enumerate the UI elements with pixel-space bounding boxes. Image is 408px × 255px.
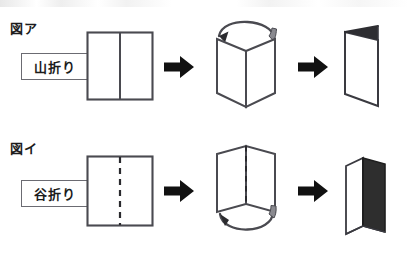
fold-label-valley: 谷折り [21, 180, 89, 207]
figure-heading-i: 図イ [10, 142, 37, 155]
arrow-step-1-mountain [163, 54, 195, 80]
figure-row-valley-fold: 図イ 谷折り [0, 128, 408, 255]
arrow-step-2-valley [297, 178, 329, 204]
figure-heading-a: 図ア [10, 22, 37, 35]
step-final-card-valley [336, 150, 394, 242]
step-flat-sheet-valley [86, 155, 154, 227]
step-folded-3d-valley [203, 142, 289, 242]
step-flat-sheet-mountain [86, 31, 154, 101]
arrow-step-1-valley [163, 178, 195, 204]
fold-label-mountain: 山折り [21, 53, 89, 80]
step-final-card-mountain [336, 18, 392, 110]
arrow-step-2-mountain [297, 54, 329, 80]
figure-row-mountain-fold: 図ア 山折り [0, 0, 408, 128]
step-folded-3d-mountain [203, 11, 289, 115]
